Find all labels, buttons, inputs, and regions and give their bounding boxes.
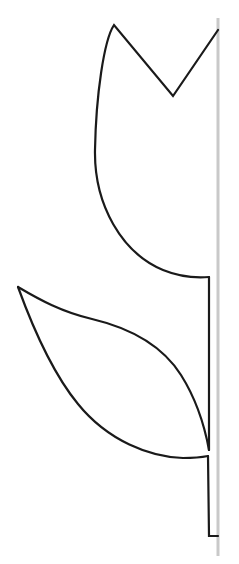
tulip-figure-canvas: Tulip Half Outline Black line-art outlin… (0, 0, 239, 564)
background-rect (0, 0, 239, 564)
tulip-line-drawing (0, 0, 239, 564)
